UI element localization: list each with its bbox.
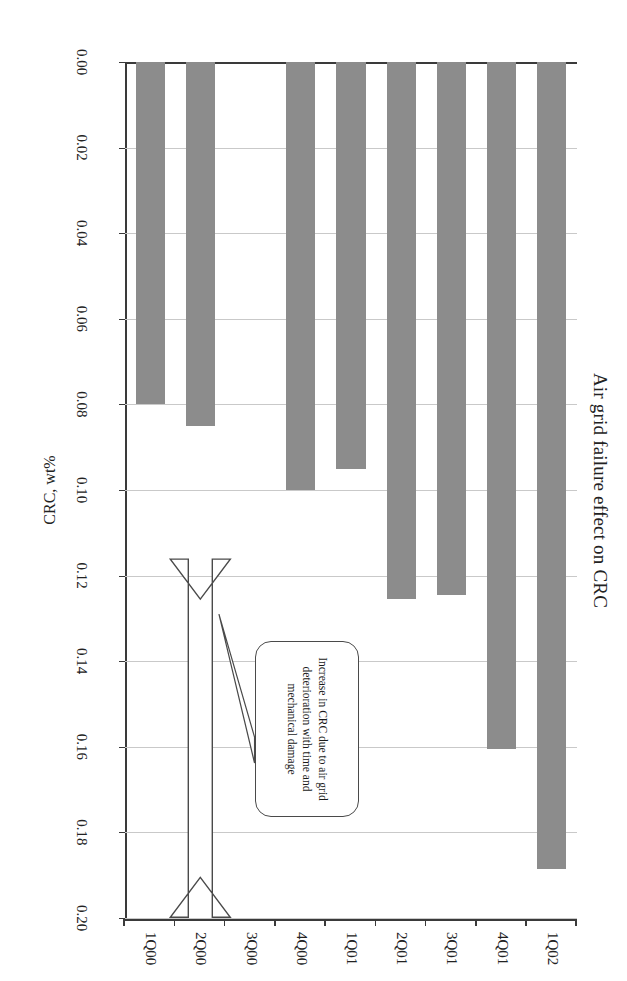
chart-figure: Air grid failure effect on CRC 0.200.180…	[0, 0, 627, 981]
rotated-figure-wrapper: Air grid failure effect on CRC 0.200.180…	[0, 0, 627, 981]
double-headed-arrow-icon	[0, 0, 627, 981]
